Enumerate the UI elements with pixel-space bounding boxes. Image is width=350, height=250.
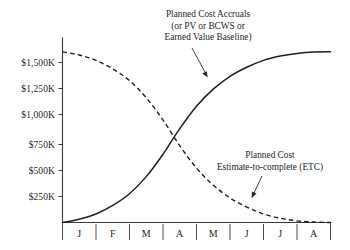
y-tick-label-1000: $1,000K	[21, 110, 55, 120]
pv-annotation-leader-line	[192, 48, 206, 73]
y-tick-label-250: $250K	[29, 192, 55, 202]
pv-annotation-line-1: Planned Cost Accruals	[166, 9, 251, 19]
x-tick-label-6: J	[278, 228, 282, 239]
x-tick-label-4: M	[209, 228, 218, 239]
series-line-etc	[63, 52, 331, 223]
y-tick-label-1500: $1,500K	[21, 58, 55, 68]
y-tick-label-500: $500K	[29, 166, 55, 176]
chart-axes	[63, 38, 332, 223]
pv-annotation-arrowhead	[202, 71, 208, 77]
etc-annotation: Planned Cost Estimate-to-complete (ETC)	[217, 150, 323, 198]
x-axis-month-band	[63, 223, 331, 241]
y-axis-tick-labels: $1,500K $1,250K $1,000K $750K $500K $250…	[21, 58, 55, 202]
series-line-planned-cost-accruals	[63, 52, 331, 223]
x-axis-tick-labels: J F M A M J J A	[77, 228, 318, 239]
chart-series-group	[63, 52, 331, 223]
chart-figure: $1,500K $1,250K $1,000K $750K $500K $250…	[0, 0, 350, 250]
etc-annotation-leader-line	[254, 176, 263, 194]
y-tick-label-1250: $1,250K	[21, 84, 55, 94]
x-tick-label-5: J	[245, 228, 249, 239]
x-tick-label-1: F	[110, 228, 116, 239]
etc-annotation-line-2: Estimate-to-complete (ETC)	[217, 162, 323, 173]
s-curve-chart: $1,500K $1,250K $1,000K $750K $500K $250…	[0, 0, 350, 250]
etc-annotation-line-1: Planned Cost	[245, 150, 295, 160]
pv-annotation-line-3: Earned Value Baseline)	[164, 32, 251, 43]
x-tick-label-3: A	[176, 228, 184, 239]
pv-annotation-line-2: (or PV or BCWS or	[171, 21, 246, 32]
x-tick-label-7: A	[310, 228, 318, 239]
pv-annotation: Planned Cost Accruals (or PV or BCWS or …	[164, 9, 251, 78]
y-axis-ticks	[59, 63, 63, 197]
y-tick-label-750: $750K	[29, 140, 55, 150]
x-tick-label-0: J	[77, 228, 81, 239]
x-tick-label-2: M	[142, 228, 151, 239]
